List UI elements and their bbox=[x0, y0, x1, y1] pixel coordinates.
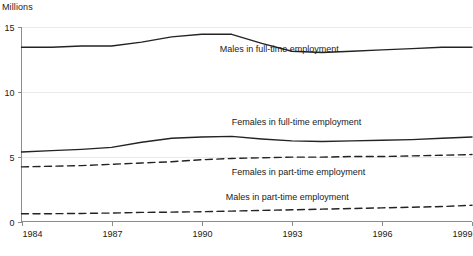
series-label-1: Females in full-time employment bbox=[232, 117, 362, 127]
series-label-2: Females in part-time employment bbox=[232, 167, 366, 177]
x-tick-label-1996: 1996 bbox=[372, 229, 392, 239]
x-tick-label-1987: 1987 bbox=[102, 229, 122, 239]
x-tick-label-1993: 1993 bbox=[282, 229, 302, 239]
y-tick-label-5: 5 bbox=[9, 153, 14, 163]
series-line-1 bbox=[22, 136, 473, 152]
y-tick-label-0: 0 bbox=[9, 218, 14, 228]
x-tick-label-1999: 1999 bbox=[452, 229, 472, 239]
x-tick-label-1984: 1984 bbox=[23, 229, 43, 239]
employment-line-chart: Millions 051015198419871990199319961999M… bbox=[0, 0, 473, 256]
y-axis-title: Millions bbox=[2, 2, 33, 12]
y-tick-label-10: 10 bbox=[4, 88, 14, 98]
series-line-2 bbox=[22, 155, 473, 167]
x-tick-label-1990: 1990 bbox=[192, 229, 212, 239]
series-label-0: Males in full-time employment bbox=[220, 44, 340, 54]
y-tick-label-15: 15 bbox=[4, 23, 14, 33]
series-line-3 bbox=[22, 205, 473, 213]
chart-canvas: 051015198419871990199319961999Males in f… bbox=[0, 0, 473, 256]
series-label-3: Males in part-time employment bbox=[226, 192, 350, 202]
